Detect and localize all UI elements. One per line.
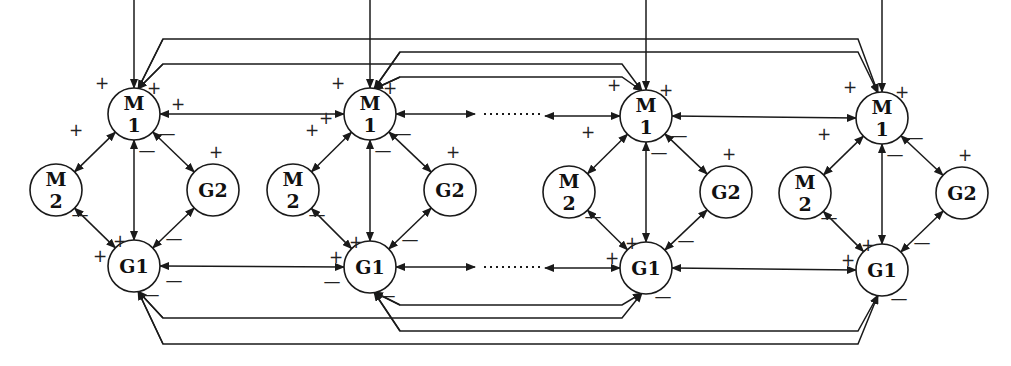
long-link-mod1-mod4-m1 xyxy=(138,39,878,93)
sign-minus: — xyxy=(309,204,326,224)
node-mod2-g2: G2 xyxy=(424,164,476,216)
node-label-top: M xyxy=(282,168,303,190)
sign-plus: + xyxy=(817,124,831,144)
sign-minus: — xyxy=(379,285,396,305)
sign-minus: — xyxy=(166,228,183,248)
sign-plus: + xyxy=(625,233,639,253)
sign-minus: — xyxy=(907,127,924,147)
sign-minus: — xyxy=(821,207,838,227)
node-label: G2 xyxy=(947,182,976,204)
node-label-top: M xyxy=(635,94,656,116)
node-label: G2 xyxy=(198,179,227,201)
sign-plus: + xyxy=(659,80,673,100)
sign-minus: — xyxy=(166,270,183,290)
sign-plus: + xyxy=(209,142,223,162)
sign-plus: + xyxy=(958,145,972,165)
node-label-bottom: 1 xyxy=(875,118,888,140)
sign-minus: — xyxy=(139,140,156,160)
sign-minus: — xyxy=(159,123,176,143)
sign-plus: + xyxy=(113,231,127,251)
sign-plus: + xyxy=(722,144,736,164)
node-mod1-g2: G2 xyxy=(187,164,239,216)
sign-plus: + xyxy=(607,75,621,95)
sign-minus: — xyxy=(914,232,931,252)
sign-plus: + xyxy=(446,142,460,162)
sign-minus: — xyxy=(671,125,688,145)
long-link-mod2-mod3-g1 xyxy=(374,292,642,305)
link-mod3-mod4-m1 xyxy=(672,116,856,118)
sign-plus: + xyxy=(93,246,107,266)
sign-minus: — xyxy=(651,142,668,162)
node-label-bottom: 2 xyxy=(49,190,62,212)
node-label-bottom: 1 xyxy=(363,114,376,136)
sign-plus: + xyxy=(349,232,363,252)
node-label-bottom: 1 xyxy=(127,114,140,136)
sign-plus: + xyxy=(331,73,345,93)
link-mod3-mod4-g1 xyxy=(672,268,856,270)
node-label: G1 xyxy=(355,256,384,278)
sign-minus: — xyxy=(375,140,392,160)
node-label-top: M xyxy=(794,171,815,193)
sign-plus: + xyxy=(895,82,909,102)
node-label-top: M xyxy=(123,92,144,114)
sign-minus: — xyxy=(143,284,160,304)
sign-plus: + xyxy=(581,122,595,142)
sign-minus: — xyxy=(887,144,904,164)
sign-minus: — xyxy=(655,286,672,306)
link-mod1-mod2-g1 xyxy=(160,266,344,267)
sign-minus: — xyxy=(585,206,602,226)
sign-plus: + xyxy=(329,247,343,267)
node-label-bottom: 2 xyxy=(798,193,811,215)
node-label: G2 xyxy=(435,179,464,201)
long-link-mod2-mod3-m1 xyxy=(374,77,642,91)
node-label: G1 xyxy=(867,259,896,281)
node-mod3-g2: G2 xyxy=(700,166,752,218)
node-label-bottom: 1 xyxy=(639,116,652,138)
node-mod4-g2: G2 xyxy=(936,167,988,219)
sign-plus: + xyxy=(861,235,875,255)
node-label: G1 xyxy=(119,255,148,277)
sign-plus: + xyxy=(841,250,855,270)
long-link-mod2-mod4-g1 xyxy=(374,292,878,331)
node-label-top: M xyxy=(558,170,579,192)
sign-plus: + xyxy=(95,73,109,93)
sign-minus: — xyxy=(402,229,419,249)
sign-minus: — xyxy=(395,123,412,143)
node-label-bottom: 2 xyxy=(286,190,299,212)
node-label: G2 xyxy=(711,181,740,203)
long-link-mod2-mod4-m1 xyxy=(374,52,878,93)
sign-minus: — xyxy=(678,230,695,250)
node-label-top: M xyxy=(359,92,380,114)
node-label-top: M xyxy=(45,168,66,190)
sign-plus: + xyxy=(319,108,333,128)
network-diagram: M1M2G2G1M1M2G2G1M1M2G2G1M1M2G2G1 +++——+—… xyxy=(0,0,1011,366)
sign-plus: + xyxy=(69,120,83,140)
sign-plus: + xyxy=(171,94,185,114)
sign-minus: — xyxy=(72,204,89,224)
node-label-bottom: 2 xyxy=(562,192,575,214)
node-label: G1 xyxy=(631,257,660,279)
sign-plus: + xyxy=(305,120,319,140)
sign-minus: — xyxy=(324,271,341,291)
sign-plus: + xyxy=(147,78,161,98)
sign-minus: — xyxy=(891,288,908,308)
sign-plus: + xyxy=(383,78,397,98)
node-label-top: M xyxy=(871,96,892,118)
sign-plus: + xyxy=(605,248,619,268)
sign-plus: + xyxy=(843,77,857,97)
